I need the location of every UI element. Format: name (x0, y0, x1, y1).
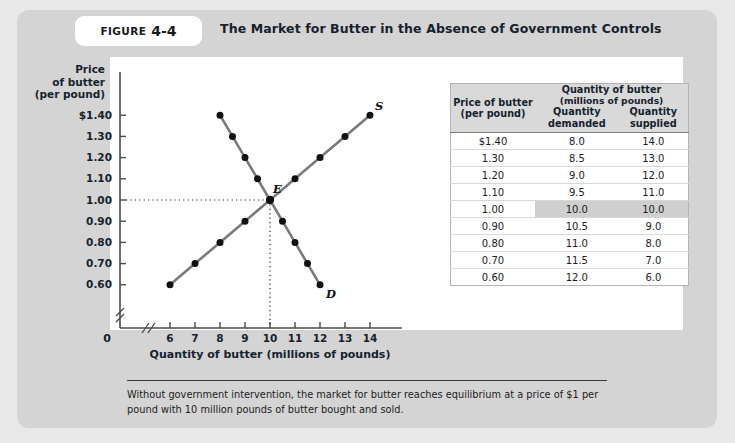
y-axis-tick-label: 0.80 (86, 236, 112, 248)
data-point (217, 239, 224, 246)
table-row: 1.0010.010.0 (451, 201, 689, 218)
equilibrium-label: E (272, 182, 282, 196)
cell-quantity-supplied: 7.0 (619, 252, 689, 269)
cell-quantity-supplied: 6.0 (619, 269, 689, 286)
cell-quantity-demanded: 11.0 (535, 235, 619, 252)
cell-quantity-supplied: 12.0 (619, 167, 689, 184)
header-supplied-line-1: Quantity (619, 106, 688, 118)
table-row: 1.109.511.0 (451, 184, 689, 201)
x-axis-tick-label: 10 (263, 332, 278, 344)
caption-rule (127, 380, 607, 381)
table-body: $1.408.014.01.308.513.01.209.012.01.109.… (451, 133, 689, 286)
x-axis-tick-label: 11 (288, 332, 303, 344)
data-point (229, 133, 236, 140)
header-quantity-title: Quantity of butter (535, 84, 688, 95)
y-axis-tick-label: 0.70 (86, 257, 112, 269)
cell-quantity-demanded: 8.0 (535, 133, 619, 150)
cell-quantity-demanded: 8.5 (535, 150, 619, 167)
y-axis-tick-label: 1.10 (86, 172, 112, 184)
table-row: $1.408.014.0 (451, 133, 689, 150)
cell-price: $1.40 (451, 133, 536, 150)
x-axis-tick-label: 13 (338, 332, 353, 344)
cell-price: 1.10 (451, 184, 536, 201)
cell-quantity-supplied: 10.0 (619, 201, 689, 218)
data-point (367, 112, 374, 119)
data-point (317, 281, 324, 288)
cell-quantity-demanded: 9.5 (535, 184, 619, 201)
cell-quantity-supplied: 8.0 (619, 235, 689, 252)
x-axis-tick-label: 8 (216, 332, 223, 344)
table-row: 0.9010.59.0 (451, 218, 689, 235)
y-axis-tick-label: 1.30 (86, 130, 112, 142)
y-axis-tick-label: 0.90 (86, 215, 112, 227)
header-supplied-cell: Quantity supplied (619, 106, 689, 133)
data-point (192, 260, 199, 267)
header-price-line-1: Price of butter (451, 97, 535, 109)
cell-quantity-demanded: 11.5 (535, 252, 619, 269)
equilibrium-point (266, 196, 274, 204)
table-header-row-top: Price of butter (per pound) Quantity of … (451, 84, 689, 107)
data-point (342, 133, 349, 140)
cell-quantity-demanded: 10.0 (535, 201, 619, 218)
x-axis-tick-label: 14 (363, 332, 378, 344)
data-point (167, 281, 174, 288)
data-point (304, 260, 311, 267)
cell-quantity-supplied: 11.0 (619, 184, 689, 201)
x-axis-tick-label: 12 (313, 332, 328, 344)
data-point (279, 218, 286, 225)
cell-price: 1.30 (451, 150, 536, 167)
table-row: 0.6012.06.0 (451, 269, 689, 286)
header-price-line-2: (per pound) (451, 108, 535, 120)
y-axis-tick-label: 1.00 (86, 194, 112, 206)
header-demanded-line-2: demanded (535, 118, 619, 130)
x-axis-title: Quantity of butter (millions of pounds) (150, 348, 391, 361)
data-point (292, 239, 299, 246)
y-axis-tick-label: 0.60 (86, 278, 112, 290)
cell-quantity-supplied: 9.0 (619, 218, 689, 235)
supply-curve-label: S (375, 99, 383, 113)
header-supplied-line-2: supplied (619, 118, 688, 130)
cell-price: 0.60 (451, 269, 536, 286)
header-quantity-span: Quantity of butter (millions of pounds) (535, 84, 689, 107)
header-demanded-cell: Quantity demanded (535, 106, 619, 133)
figure-card: FIGURE 4-4 The Market for Butter in the … (17, 10, 717, 428)
cell-price: 1.00 (451, 201, 536, 218)
table-row: 1.209.012.0 (451, 167, 689, 184)
table-row: 0.8011.08.0 (451, 235, 689, 252)
y-axis-tick-label: $1.40 (79, 109, 112, 121)
table-row: 1.308.513.0 (451, 150, 689, 167)
data-point (317, 154, 324, 161)
table-head: Price of butter (per pound) Quantity of … (451, 84, 689, 133)
cell-quantity-supplied: 13.0 (619, 150, 689, 167)
header-demanded-line-1: Quantity (535, 106, 619, 118)
cell-price: 0.80 (451, 235, 536, 252)
cell-price: 0.70 (451, 252, 536, 269)
data-point (254, 175, 261, 182)
data-point (242, 218, 249, 225)
data-point (217, 112, 224, 119)
figure-caption: Without government intervention, the mar… (127, 387, 627, 417)
x-axis-tick-label: 7 (191, 332, 198, 344)
cell-quantity-supplied: 14.0 (619, 133, 689, 150)
data-point (242, 154, 249, 161)
header-price-cell: Price of butter (per pound) (451, 84, 536, 133)
cell-quantity-demanded: 10.5 (535, 218, 619, 235)
origin-label: 0 (103, 332, 111, 345)
figure-page: FIGURE 4-4 The Market for Butter in the … (0, 0, 735, 443)
supply-demand-table: Price of butter (per pound) Quantity of … (450, 83, 689, 286)
data-point (292, 175, 299, 182)
x-axis-tick-label: 6 (166, 332, 173, 344)
cell-price: 1.20 (451, 167, 536, 184)
y-axis-tick-label: 1.20 (86, 151, 112, 163)
cell-quantity-demanded: 12.0 (535, 269, 619, 286)
header-quantity-units: (millions of pounds) (535, 95, 688, 106)
table-row: 0.7011.57.0 (451, 252, 689, 269)
demand-curve-label: D (325, 287, 336, 301)
x-axis-tick-label: 9 (241, 332, 248, 344)
cell-quantity-demanded: 9.0 (535, 167, 619, 184)
cell-price: 0.90 (451, 218, 536, 235)
